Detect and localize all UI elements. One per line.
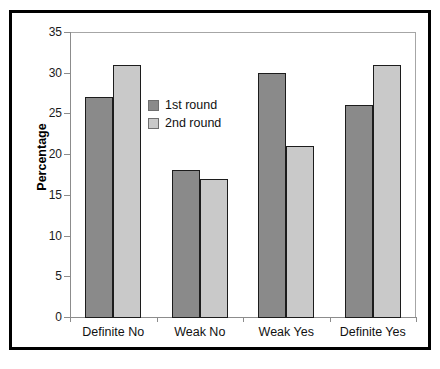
y-tick-label-text: 15 <box>28 189 62 201</box>
y-tick-mark <box>64 154 70 155</box>
x-separator-tick <box>330 317 331 322</box>
y-tick-mark <box>64 73 70 74</box>
y-tick-mark <box>64 113 70 114</box>
bar <box>172 170 200 318</box>
y-tick-label-text: 20 <box>28 148 62 160</box>
bar-chart-figure: Percentage 05101520253035 Definite NoWea… <box>0 0 440 369</box>
y-axis-line <box>70 32 71 318</box>
bar <box>373 65 401 318</box>
y-tick-label: 15 <box>24 189 62 201</box>
legend-item: 2nd round <box>148 115 258 132</box>
y-tick-label: 30 <box>24 67 62 79</box>
x-separator-tick <box>157 317 158 322</box>
legend-label: 2nd round <box>165 117 221 130</box>
bar <box>286 146 314 318</box>
legend-swatch-icon <box>148 118 159 129</box>
bar <box>200 179 228 318</box>
y-tick-label: 20 <box>24 148 62 160</box>
y-tick-label: 25 <box>24 107 62 119</box>
x-axis-category-label: Definite No <box>70 325 157 340</box>
chart-legend: 1st round2nd round <box>148 97 258 133</box>
y-tick-label: 0 <box>24 311 62 323</box>
y-tick-mark <box>64 32 70 33</box>
y-tick-label-text: 0 <box>28 311 62 323</box>
bar <box>113 65 141 318</box>
x-separator-tick <box>416 317 417 322</box>
y-tick-mark <box>64 276 70 277</box>
bar <box>258 73 286 318</box>
y-tick-label-text: 35 <box>28 26 62 38</box>
legend-label: 1st round <box>165 99 217 112</box>
legend-swatch-icon <box>148 100 159 111</box>
y-tick-mark <box>64 195 70 196</box>
y-tick-label: 5 <box>24 270 62 282</box>
y-tick-label: 10 <box>24 230 62 242</box>
x-axis-category-label: Weak No <box>157 325 244 340</box>
y-tick-label-text: 25 <box>28 107 62 119</box>
y-tick-mark <box>64 236 70 237</box>
bar <box>345 105 373 318</box>
x-separator-tick <box>70 317 71 322</box>
y-tick-label-text: 30 <box>28 67 62 79</box>
y-tick-label-text: 10 <box>28 230 62 242</box>
x-separator-tick <box>243 317 244 322</box>
y-tick-label: 35 <box>24 26 62 38</box>
x-axis-category-label: Weak Yes <box>243 325 330 340</box>
bar <box>85 97 113 318</box>
x-axis-category-label: Definite Yes <box>330 325 417 340</box>
legend-item: 1st round <box>148 97 258 114</box>
y-tick-label-text: 5 <box>28 270 62 282</box>
